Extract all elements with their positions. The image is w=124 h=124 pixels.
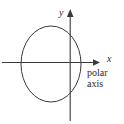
diagram-canvas [0, 0, 124, 124]
y-axis-label: y [59, 8, 63, 18]
vertical-axis-arrowhead [67, 9, 74, 17]
ellipse-curve [21, 26, 81, 102]
polar-conic-figure: x y polar axis [0, 0, 124, 124]
polar-axis-caption-line2: axis [87, 78, 103, 89]
horizontal-axis-arrowhead [93, 59, 100, 66]
x-axis-label: x [107, 54, 111, 64]
polar-axis-caption-line1: polar [87, 67, 108, 78]
